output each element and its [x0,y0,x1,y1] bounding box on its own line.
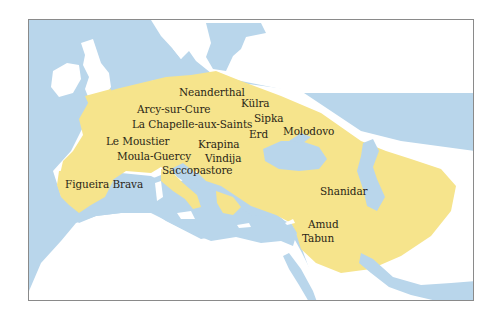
map-canvas [29,20,474,301]
site-label-erd: Erd [249,129,268,140]
site-label-moula-guercy: Moula-Guercy [117,151,191,162]
site-label-vindija: Vindija [205,153,241,164]
map-frame: Neanderthal Külra Arcy-sur-Cure Sipka La… [28,19,474,301]
site-label-molodovo: Molodovo [283,126,334,137]
site-label-arcy-sur-cure: Arcy-sur-Cure [137,104,210,115]
site-label-la-chapelle-aux-saints: La Chapelle-aux-Saints [132,119,252,130]
site-label-kulra: Külra [241,98,270,109]
site-label-sipka: Sipka [254,113,283,124]
site-label-shanidar: Shanidar [320,186,368,197]
site-label-saccopastore: Saccopastore [162,165,232,176]
site-label-neanderthal: Neanderthal [179,87,245,98]
site-label-figueira-brava: Figueira Brava [65,179,143,190]
site-label-tabun: Tabun [302,233,334,244]
site-label-le-moustier: Le Moustier [106,136,169,147]
site-label-amud: Amud [308,219,339,230]
site-label-krapina: Krapina [198,139,240,150]
